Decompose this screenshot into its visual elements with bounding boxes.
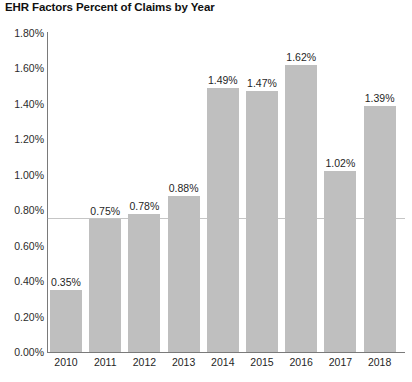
y-axis-tick-label: 0.20%: [2, 311, 44, 322]
y-axis-tick-label: 1.20%: [2, 134, 44, 145]
y-axis-tick-label: 1.00%: [2, 170, 44, 181]
bar: [246, 91, 278, 352]
x-axis-line: [47, 352, 405, 353]
y-axis-tick-label: 0.00%: [2, 347, 44, 358]
y-axis-tick-label: 1.40%: [2, 99, 44, 110]
bar-value-label: 0.78%: [119, 201, 169, 212]
bar-value-label: 1.47%: [237, 78, 287, 89]
bar: [89, 219, 121, 352]
y-axis-tick-label: 0.60%: [2, 240, 44, 251]
bar-chart: EHR Factors Percent of Claims by Year 0.…: [0, 0, 412, 382]
bar-value-label: 1.39%: [355, 93, 405, 104]
x-axis-tick-label: 2018: [355, 357, 405, 368]
bar: [285, 65, 317, 352]
bar: [50, 290, 82, 352]
bar: [364, 106, 396, 352]
y-axis-tick-label: 0.40%: [2, 276, 44, 287]
bar: [128, 214, 160, 352]
bar-value-label: 0.35%: [41, 277, 91, 288]
y-axis-tick-label: 0.80%: [2, 205, 44, 216]
bar: [324, 171, 356, 352]
bar: [168, 196, 200, 352]
y-axis-tick-label: 1.60%: [2, 63, 44, 74]
bar-value-label: 1.62%: [276, 52, 326, 63]
bar: [207, 88, 239, 352]
bar-value-label: 0.88%: [159, 183, 209, 194]
y-axis: 0.00%0.20%0.40%0.60%0.80%1.00%1.20%1.40%…: [0, 0, 44, 382]
y-axis-tick-label: 1.80%: [2, 28, 44, 39]
bar-value-label: 1.02%: [315, 158, 365, 169]
